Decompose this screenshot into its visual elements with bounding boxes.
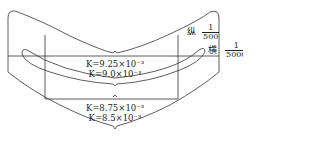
horizontal-scale-fraction: 1 5000	[225, 42, 243, 59]
horizontal-scale-denominator: 5000	[225, 50, 243, 59]
lower-cusp	[113, 95, 117, 97]
upper-k-label-2: K=9.0×10⁻³	[75, 70, 155, 79]
horizontal-scale: 横 1 5000	[208, 42, 243, 59]
horizontal-scale-label: 横	[208, 45, 217, 55]
vertical-scale-denominator: 500	[202, 32, 219, 41]
vertical-scale-label: 纵	[187, 27, 196, 37]
horizontal-scale-numerator: 1	[233, 42, 240, 50]
lower-k-label-1: K=8.75×10⁻³	[75, 104, 155, 113]
vertical-scale-fraction: 1 500	[202, 24, 219, 41]
vertical-scale: 纵 1 500	[187, 24, 219, 41]
vertical-scale-numerator: 1	[207, 24, 214, 32]
lower-k-label-2: K=8.5×10⁻³	[75, 114, 155, 123]
upper-k-label-1: K=9.25×10⁻³	[75, 60, 155, 69]
